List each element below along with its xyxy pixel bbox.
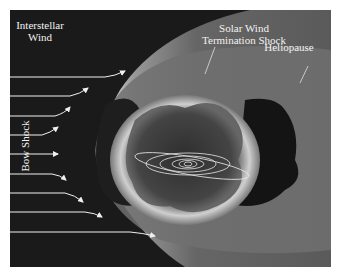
heliosphere-diagram: Interstellar Wind Solar Wind Termination…	[10, 10, 331, 267]
heliopause-label: Heliopause	[256, 41, 322, 53]
termination-shock-label-line1: Solar Wind	[194, 22, 294, 34]
interstellar-wind-label-line1: Interstellar	[12, 19, 68, 31]
interstellar-wind-label: Interstellar Wind	[12, 19, 68, 43]
bow-shock-label: Bow Shock	[19, 119, 31, 173]
interstellar-wind-label-line2: Wind	[12, 31, 68, 43]
inner-heliosphere	[126, 103, 243, 212]
